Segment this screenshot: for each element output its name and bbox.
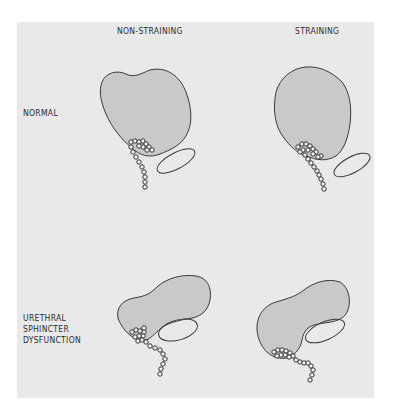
bladder-dysfunction-non-straining: [118, 275, 211, 376]
bladder-normal-non-straining: [100, 69, 198, 189]
sphincter-beads: [129, 139, 154, 189]
bladder-diagram: [0, 0, 394, 414]
bladder-normal-straining: [274, 67, 373, 191]
bladder-dysfunction-straining: [257, 280, 349, 382]
